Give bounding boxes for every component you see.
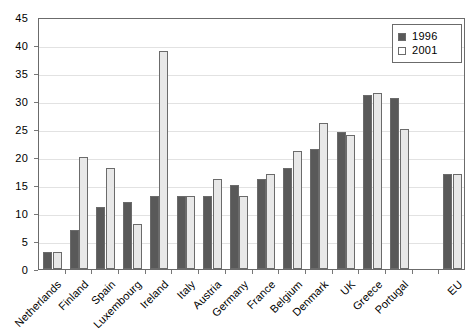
legend-swatch-2001-icon bbox=[398, 47, 406, 55]
legend-entry-1996: 1996 bbox=[398, 30, 456, 43]
bar-1996-Luxembourg bbox=[123, 202, 132, 269]
chart-legend: 1996 2001 bbox=[392, 24, 462, 63]
bar-group bbox=[226, 19, 253, 269]
x-label-eu: EU bbox=[445, 278, 464, 297]
bar-group bbox=[253, 19, 280, 269]
bar-group bbox=[92, 19, 119, 269]
y-axis: 051015202530354045 bbox=[0, 0, 34, 328]
y-tick-label: 40 bbox=[15, 40, 28, 52]
x-tick-mark bbox=[438, 270, 439, 274]
bar-group bbox=[119, 19, 146, 269]
bar-2001-Luxembourg bbox=[133, 224, 142, 269]
x-label-france: France bbox=[244, 278, 277, 311]
legend-swatch-1996-icon bbox=[398, 33, 406, 41]
legend-label-1996: 1996 bbox=[412, 31, 438, 42]
y-tick-label: 20 bbox=[15, 152, 28, 164]
bar-2001-Netherlands bbox=[53, 252, 62, 269]
y-tick-label: 10 bbox=[15, 208, 28, 220]
bar-1996-Spain bbox=[96, 207, 105, 269]
bar-group bbox=[333, 19, 360, 269]
x-tick-mark bbox=[145, 270, 146, 274]
bar-2001-Germany bbox=[239, 196, 248, 269]
x-label-germany: Germany bbox=[210, 278, 251, 319]
x-label-belgium: Belgium bbox=[267, 278, 304, 315]
x-tick-mark bbox=[65, 270, 66, 274]
bar-1996-Italy bbox=[177, 196, 186, 269]
y-tick-label: 35 bbox=[15, 68, 28, 80]
x-label-spain: Spain bbox=[88, 278, 117, 307]
x-label-portugal: Portugal bbox=[373, 278, 411, 316]
bar-group bbox=[172, 19, 199, 269]
x-tick-mark bbox=[91, 270, 92, 274]
bar-1996-Ireland bbox=[150, 196, 159, 269]
bar-2001-Spain bbox=[106, 168, 115, 269]
y-tick-label: 5 bbox=[22, 236, 28, 248]
bar-1996-EU bbox=[443, 174, 452, 269]
x-tick-mark bbox=[198, 270, 199, 274]
y-tick-label: 25 bbox=[15, 124, 28, 136]
x-axis-ticks bbox=[38, 270, 465, 275]
bar-1996-Austria bbox=[203, 196, 212, 269]
x-tick-mark bbox=[358, 270, 359, 274]
bar-group bbox=[306, 19, 333, 269]
bar-2001-EU bbox=[453, 174, 462, 269]
bar-1996-Finland bbox=[70, 230, 79, 269]
bar-group bbox=[146, 19, 173, 269]
bar-1996-Portugal bbox=[390, 98, 399, 269]
x-label-ireland: Ireland bbox=[138, 278, 171, 311]
x-tick-mark bbox=[118, 270, 119, 274]
bar-group bbox=[39, 19, 66, 269]
bar-2001-Belgium bbox=[293, 151, 302, 269]
bar-2001-France bbox=[266, 174, 275, 269]
bar-1996-UK bbox=[337, 132, 346, 269]
y-tick-label: 15 bbox=[15, 180, 28, 192]
bar-2001-Ireland bbox=[159, 51, 168, 269]
x-tick-mark bbox=[225, 270, 226, 274]
x-tick-mark bbox=[412, 270, 413, 274]
x-label-austria: Austria bbox=[191, 278, 224, 311]
bar-group bbox=[359, 19, 386, 269]
bar-1996-Greece bbox=[363, 95, 372, 269]
x-label-italy: Italy bbox=[174, 278, 197, 301]
bar-1996-France bbox=[257, 179, 266, 269]
bar-group bbox=[66, 19, 93, 269]
y-tick-label: 30 bbox=[15, 96, 28, 108]
y-tick-label: 0 bbox=[22, 264, 28, 276]
x-tick-mark bbox=[278, 270, 279, 274]
bar-group bbox=[199, 19, 226, 269]
x-label-greece: Greece bbox=[350, 278, 384, 312]
bar-1996-Belgium bbox=[283, 168, 292, 269]
x-label-finland: Finland bbox=[56, 278, 90, 312]
bar-1996-Germany bbox=[230, 185, 239, 269]
x-tick-mark bbox=[252, 270, 253, 274]
x-tick-mark bbox=[171, 270, 172, 274]
x-label-luxembourg: Luxembourg bbox=[91, 278, 143, 330]
bar-2001-Portugal bbox=[400, 129, 409, 269]
x-tick-mark bbox=[305, 270, 306, 274]
bar-2001-Greece bbox=[373, 93, 382, 269]
bar-2001-Denmark bbox=[319, 123, 328, 269]
bar-1996-Denmark bbox=[310, 149, 319, 269]
bar-1996-Netherlands bbox=[43, 252, 52, 269]
legend-label-2001: 2001 bbox=[412, 45, 438, 56]
bar-2001-Finland bbox=[79, 157, 88, 269]
x-tick-mark bbox=[332, 270, 333, 274]
bar-2001-Austria bbox=[213, 179, 222, 269]
x-label-uk: UK bbox=[338, 278, 357, 297]
x-tick-mark bbox=[385, 270, 386, 274]
bar-2001-Italy bbox=[186, 196, 195, 269]
y-tick-label: 45 bbox=[15, 12, 28, 24]
x-label-denmark: Denmark bbox=[290, 278, 331, 319]
bar-2001-UK bbox=[346, 135, 355, 269]
legend-entry-2001: 2001 bbox=[398, 44, 456, 57]
bar-group bbox=[279, 19, 306, 269]
